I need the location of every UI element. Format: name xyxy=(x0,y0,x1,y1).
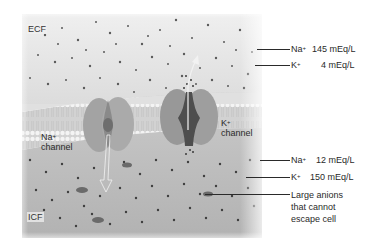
ecf-k-leader xyxy=(255,65,290,66)
na-channel-label: Na+ channel xyxy=(41,132,73,152)
anions-label: Large anions that cannot escape cell xyxy=(291,189,343,225)
icf-na-ion: Na+ xyxy=(291,155,306,165)
ecf-na-leader xyxy=(257,49,290,50)
icf-k-ion: K+ xyxy=(291,172,301,182)
anions-leader xyxy=(205,194,290,195)
ecf-k-ion: K+ xyxy=(291,60,301,70)
icf-k-value: 150 mEq/L xyxy=(310,172,354,182)
icf-label: ICF xyxy=(27,212,44,222)
ecf-na-value: 145 mEq/L xyxy=(312,44,356,54)
membrane-diagram: ECF ICF Na+ channel K+ channel Na+ 145 m… xyxy=(0,0,376,243)
k-channel-label: K+ channel xyxy=(221,118,253,138)
ecf-k-value: 4 mEq/L xyxy=(321,60,355,70)
ecf-na-ion: Na+ xyxy=(291,44,306,54)
ecf-label: ECF xyxy=(27,24,47,34)
icf-na-leader xyxy=(260,160,290,161)
icf-na-value: 12 mEq/L xyxy=(316,155,355,165)
ecf-region xyxy=(22,14,262,104)
icf-k-leader xyxy=(246,177,290,178)
